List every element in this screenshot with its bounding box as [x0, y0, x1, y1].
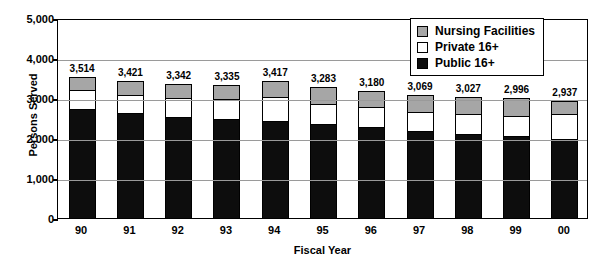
- x-axis-tick-label: 92: [172, 224, 184, 236]
- bar-stack: [165, 84, 192, 218]
- y-axis-tickmark: [53, 139, 58, 141]
- y-axis-tickmark: [53, 99, 58, 101]
- bar-segment-public-16plus[interactable]: [262, 122, 289, 218]
- y-axis-tick-label: 4,000: [18, 54, 54, 65]
- bar-stack: [358, 91, 385, 218]
- legend-swatch-private-icon: [417, 42, 428, 53]
- bar-value-label: 3,283: [311, 74, 336, 84]
- bar-stack: [503, 98, 530, 218]
- bar-segment-public-16plus[interactable]: [407, 132, 434, 218]
- x-axis-tick-label: 99: [509, 224, 521, 236]
- legend-label: Nursing Facilities: [435, 24, 535, 38]
- bar-stack: [117, 81, 144, 218]
- bar-segment-private-16plus[interactable]: [165, 99, 192, 118]
- x-axis-tick-label: 91: [123, 224, 135, 236]
- bar-value-label: 2,996: [504, 85, 529, 95]
- bar-stack: [69, 77, 96, 218]
- bar-segment-public-16plus[interactable]: [455, 135, 482, 218]
- bar-segment-private-16plus[interactable]: [551, 115, 578, 140]
- x-axis-tick-label: 00: [558, 224, 570, 236]
- bar-stack: [551, 101, 578, 218]
- bar-value-label: 3,180: [359, 78, 384, 88]
- y-axis-tick-label: 2,000: [18, 134, 54, 145]
- bar-segment-private-16plus[interactable]: [262, 98, 289, 122]
- legend-item[interactable]: Private 16+: [417, 39, 535, 55]
- bar-segment-nursing-facilities[interactable]: [117, 81, 144, 96]
- x-axis-tick-label: 96: [365, 224, 377, 236]
- gridline: [58, 180, 587, 181]
- y-axis-tickmark: [53, 179, 58, 181]
- bar-value-label: 3,342: [166, 71, 191, 81]
- bar-segment-nursing-facilities[interactable]: [213, 85, 240, 100]
- y-axis-tick-label: 1,000: [18, 174, 54, 185]
- y-axis-tick-labels: 01,0002,0003,0004,0005,000: [18, 0, 54, 266]
- legend-swatch-public-icon: [417, 58, 428, 69]
- x-axis-tick-label: 94: [268, 224, 280, 236]
- bar-stack: [310, 87, 337, 218]
- x-axis-tick-label: 95: [316, 224, 328, 236]
- bar-group[interactable]: 3,335: [213, 18, 240, 218]
- bar-group[interactable]: 2,937: [551, 18, 578, 218]
- y-axis-tickmark: [53, 59, 58, 61]
- y-axis-tick-label: 0: [18, 214, 54, 225]
- bar-group[interactable]: 3,342: [165, 18, 192, 218]
- bar-segment-public-16plus[interactable]: [165, 118, 192, 218]
- bar-stack: [455, 97, 482, 218]
- legend-label: Public 16+: [435, 56, 495, 70]
- bar-segment-public-16plus[interactable]: [117, 114, 144, 218]
- y-axis-tickmark: [53, 19, 58, 21]
- bar-value-label: 3,069: [408, 82, 433, 92]
- legend-label: Private 16+: [435, 40, 499, 54]
- bar-value-label: 3,417: [263, 68, 288, 78]
- bar-group[interactable]: 3,283: [310, 18, 337, 218]
- bar-group[interactable]: 3,421: [117, 18, 144, 218]
- bar-segment-public-16plus[interactable]: [503, 137, 530, 218]
- x-axis-title: Fiscal Year: [57, 244, 588, 256]
- bar-value-label: 3,421: [118, 68, 143, 78]
- bar-segment-private-16plus[interactable]: [407, 113, 434, 132]
- bar-segment-public-16plus[interactable]: [310, 125, 337, 218]
- bar-value-label: 3,027: [456, 84, 481, 94]
- x-axis-tick-label: 97: [413, 224, 425, 236]
- bar-value-label: 2,937: [552, 88, 577, 98]
- bar-stack: [262, 81, 289, 218]
- bar-segment-public-16plus[interactable]: [551, 140, 578, 218]
- bar-segment-nursing-facilities[interactable]: [551, 101, 578, 116]
- y-axis-tick-label: 3,000: [18, 94, 54, 105]
- legend-item[interactable]: Nursing Facilities: [417, 23, 535, 39]
- x-axis-tick-labels: 9091929394959697989900: [57, 224, 588, 240]
- bar-segment-private-16plus[interactable]: [503, 117, 530, 137]
- stacked-bar-chart: Persons Served 01,0002,0003,0004,0005,00…: [0, 0, 605, 266]
- bar-value-label: 3,335: [214, 72, 239, 82]
- bar-segment-public-16plus[interactable]: [69, 110, 96, 218]
- y-axis-tickmark: [53, 219, 58, 221]
- bar-segment-nursing-facilities[interactable]: [407, 95, 434, 113]
- bar-segment-public-16plus[interactable]: [358, 128, 385, 218]
- bar-stack: [407, 95, 434, 218]
- bar-segment-nursing-facilities[interactable]: [165, 84, 192, 99]
- bar-segment-private-16plus[interactable]: [455, 115, 482, 135]
- bar-segment-nursing-facilities[interactable]: [69, 77, 96, 91]
- bar-group[interactable]: 3,180: [358, 18, 385, 218]
- x-axis-tick-label: 98: [461, 224, 473, 236]
- legend-item[interactable]: Public 16+: [417, 55, 535, 71]
- bar-segment-public-16plus[interactable]: [213, 120, 240, 218]
- bar-group[interactable]: 3,514: [69, 18, 96, 218]
- bar-value-label: 3,514: [70, 64, 95, 74]
- chart-legend: Nursing FacilitiesPrivate 16+Public 16+: [410, 18, 544, 76]
- bar-segment-nursing-facilities[interactable]: [262, 81, 289, 98]
- legend-swatch-nursing-icon: [417, 26, 428, 37]
- bar-segment-private-16plus[interactable]: [358, 108, 385, 128]
- gridline: [58, 140, 587, 141]
- bar-segment-private-16plus[interactable]: [213, 100, 240, 120]
- x-axis-tick-label: 93: [220, 224, 232, 236]
- bar-group[interactable]: 3,417: [262, 18, 289, 218]
- y-axis-tick-label: 5,000: [18, 14, 54, 25]
- bar-segment-nursing-facilities[interactable]: [310, 87, 337, 105]
- bar-stack: [213, 85, 240, 218]
- x-axis-tick-label: 90: [75, 224, 87, 236]
- bar-segment-private-16plus[interactable]: [310, 105, 337, 125]
- gridline: [58, 100, 587, 101]
